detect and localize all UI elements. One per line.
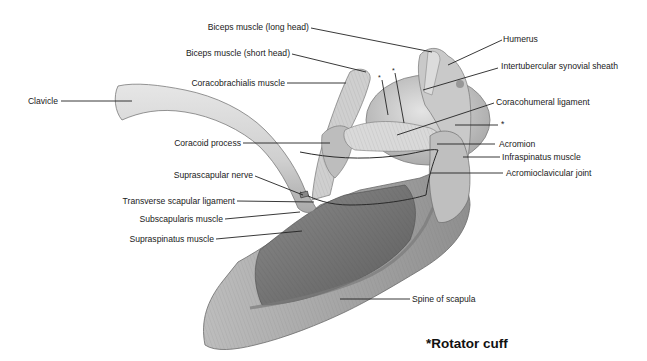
label-clavicle: Clavicle [28,96,58,106]
label-coracoid-process: Coracoid process [174,138,241,148]
label-supraspinatus: Supraspinatus muscle [129,234,214,244]
anatomy-figure: Biceps muscle (long head) Biceps muscle … [0,0,647,361]
label-biceps-short-head: Biceps muscle (short head) [186,48,290,58]
label-infraspinatus: Infraspinatus muscle [502,152,581,162]
shoulder-illustration [0,0,647,361]
label-asterisk-b: * [392,66,395,76]
label-asterisk-a: * [378,73,381,83]
label-coracobrachialis: Coracobrachialis muscle [191,78,285,88]
humeral-head [366,48,490,175]
label-suprascapular-nerve: Suprascapular nerve [174,170,253,180]
label-coracohumeral-ligament: Coracohumeral ligament [496,97,590,107]
clavicle-bone [115,84,316,212]
label-subscapularis: Subscapularis muscle [139,214,223,224]
label-humerus: Humerus [503,34,538,44]
label-biceps-long-head: Biceps muscle (long head) [208,22,309,32]
label-asterisk-right: * [501,119,504,129]
label-transverse-scapular-ligament: Transverse scapular ligament [123,196,235,206]
label-acromioclavicular-joint: Acromioclavicular joint [506,168,592,178]
label-spine-of-scapula: Spine of scapula [412,294,476,304]
rotator-cuff-caption: *Rotator cuff [426,336,508,351]
label-acromion: Acromion [499,139,535,149]
label-intertubercular-sheath: Intertubercular synovial sheath [501,61,618,71]
